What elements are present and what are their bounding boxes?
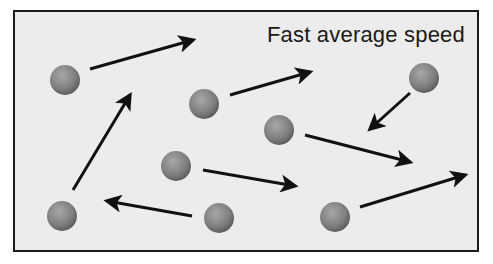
velocity-arrow-icon bbox=[73, 95, 130, 190]
velocity-arrow-icon bbox=[230, 72, 310, 95]
velocity-arrow-icon bbox=[90, 40, 193, 69]
particle-icon bbox=[204, 203, 234, 233]
particle-icon bbox=[47, 201, 77, 231]
particle-icon bbox=[409, 63, 439, 93]
particle-icon bbox=[50, 65, 80, 95]
gas-particles bbox=[47, 63, 439, 233]
particle-icon bbox=[320, 202, 350, 232]
particle-icon bbox=[264, 115, 294, 145]
particle-scene bbox=[0, 0, 493, 264]
velocity-arrow-icon bbox=[107, 201, 192, 216]
velocity-arrow-icon bbox=[203, 170, 295, 186]
particle-icon bbox=[161, 151, 191, 181]
velocity-arrow-icon bbox=[370, 93, 410, 129]
particle-icon bbox=[189, 89, 219, 119]
velocity-arrow-icon bbox=[360, 175, 465, 207]
velocity-arrow-icon bbox=[305, 135, 410, 162]
